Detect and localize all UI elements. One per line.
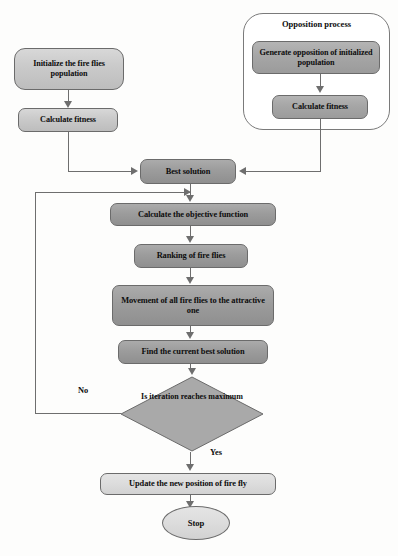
node-generate-opposition-label: Generate opposition of initialized popul… (258, 48, 374, 67)
node-objective-function[interactable]: Calculate the objective function (110, 203, 276, 226)
arrow-yes-to-update (186, 464, 194, 471)
node-objective-function-label: Calculate the objective function (138, 210, 248, 220)
node-find-best-solution-label: Find the current best solution (142, 347, 245, 357)
node-calculate-fitness-left-label: Calculate fitness (40, 115, 96, 125)
arrow-right-into-best-solution (239, 167, 246, 175)
node-calculate-fitness-right-label: Calculate fitness (292, 102, 348, 112)
arrow-best-to-objective (186, 195, 194, 202)
node-best-solution-label: Best solution (166, 167, 211, 177)
edge-label-no: No (78, 386, 88, 395)
node-best-solution[interactable]: Best solution (140, 159, 236, 184)
flowchart-canvas: Opposition process Initialize the fire f… (0, 0, 398, 556)
connector-opposition-to-fitness (320, 74, 321, 86)
node-calculate-fitness-left[interactable]: Calculate fitness (18, 108, 118, 132)
node-find-best-solution[interactable]: Find the current best solution (118, 340, 268, 364)
node-calculate-fitness-right[interactable]: Calculate fitness (272, 95, 368, 119)
arrow-no-loopback (184, 188, 191, 196)
connector-no-right (35, 192, 190, 193)
connector-left-fitness-right (68, 171, 132, 172)
arrow-movement-to-findbest (186, 332, 194, 339)
arrow-objective-to-ranking (186, 236, 194, 243)
connector-no-up (35, 192, 36, 414)
node-movement-label: Movement of all fire flies to the attrac… (121, 296, 265, 316)
node-ranking[interactable]: Ranking of fire flies (134, 244, 248, 268)
node-update-position-label: Update the new position of fire fly (129, 479, 247, 489)
node-update-position[interactable]: Update the new position of fire fly (100, 473, 276, 495)
arrow-findbest-to-decision (188, 368, 196, 375)
node-initialize-population-label: Initialize the fire flies population (21, 59, 117, 78)
node-ranking-label: Ranking of fire flies (157, 251, 226, 261)
node-stop-label: Stop (188, 518, 205, 528)
node-decision-iteration[interactable] (120, 376, 264, 452)
node-initialize-population[interactable]: Initialize the fire flies population (14, 48, 124, 90)
connector-right-fitness-down (320, 119, 321, 172)
connector-left-fitness-down (68, 132, 69, 172)
node-generate-opposition[interactable]: Generate opposition of initialized popul… (252, 41, 380, 74)
arrow-opposition-to-fitness (316, 86, 324, 93)
connector-no-left (35, 413, 121, 414)
arrow-left-into-best-solution (131, 167, 138, 175)
arrow-ranking-to-movement (186, 277, 194, 284)
opposition-process-title: Opposition process (243, 19, 390, 29)
node-stop[interactable]: Stop (162, 506, 230, 540)
arrow-initialize-to-fitness (64, 101, 72, 108)
decision-diamond-shape (120, 376, 264, 452)
node-movement[interactable]: Movement of all fire flies to the attrac… (112, 285, 274, 326)
connector-right-fitness-left (246, 171, 321, 172)
edge-label-yes: Yes (210, 448, 222, 457)
